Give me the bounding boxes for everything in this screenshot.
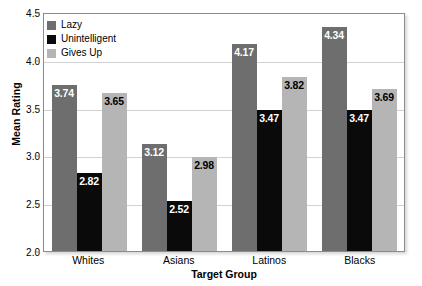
bar-group: 3.122.522.98 <box>134 14 224 251</box>
legend-item[interactable]: Lazy <box>47 19 116 31</box>
bar[interactable]: 3.82 <box>282 77 307 251</box>
bar[interactable]: 4.17 <box>232 44 257 251</box>
bar[interactable]: 2.98 <box>192 157 217 251</box>
bar[interactable]: 3.65 <box>102 93 127 251</box>
bar-chart: Mean Rating 2.02.53.03.54.04.5 3.742.823… <box>0 0 422 286</box>
bar-value-label: 3.69 <box>374 92 394 103</box>
bar-value-label: 3.47 <box>259 113 279 124</box>
legend-label: Unintelligent <box>61 34 116 44</box>
bar[interactable]: 4.34 <box>322 27 347 251</box>
legend-swatch <box>47 35 56 44</box>
y-tick-mark <box>36 252 40 253</box>
legend-label: Gives Up <box>61 48 102 58</box>
x-tick-label: Blacks <box>315 254 406 266</box>
legend-swatch <box>47 21 56 30</box>
bar-value-label: 3.74 <box>54 88 74 99</box>
x-axis-title: Target Group <box>43 268 405 280</box>
legend-item[interactable]: Gives Up <box>47 47 116 59</box>
y-tick-mark <box>36 108 40 109</box>
bar[interactable]: 3.47 <box>347 110 372 251</box>
bar-value-label: 3.82 <box>284 80 304 91</box>
bar[interactable]: 3.47 <box>257 110 282 251</box>
bar[interactable]: 2.52 <box>167 201 192 251</box>
bar[interactable]: 3.69 <box>372 89 397 251</box>
bar-value-label: 2.52 <box>169 204 189 215</box>
bar-value-label: 3.47 <box>349 113 369 124</box>
y-tick-mark <box>36 156 40 157</box>
bar-value-label: 4.17 <box>234 47 254 58</box>
bar[interactable]: 3.12 <box>142 144 167 251</box>
bar-group: 4.173.473.82 <box>224 14 314 251</box>
x-tick-label: Latinos <box>224 254 315 266</box>
bar[interactable]: 3.74 <box>52 85 77 251</box>
bar-value-label: 3.12 <box>144 147 164 158</box>
y-tick-mark <box>36 13 40 14</box>
legend-label: Lazy <box>61 20 82 30</box>
bar-value-label: 3.65 <box>104 96 124 107</box>
bar-value-label: 2.98 <box>194 160 214 171</box>
bar-value-label: 2.82 <box>79 176 99 187</box>
x-axis-ticks: WhitesAsiansLatinosBlacks <box>43 254 405 266</box>
legend-swatch <box>47 49 56 58</box>
legend-item[interactable]: Unintelligent <box>47 33 116 45</box>
x-tick-label: Whites <box>43 254 134 266</box>
y-tick-mark <box>36 60 40 61</box>
y-axis-ticks: 2.02.53.03.54.04.5 <box>14 0 40 286</box>
y-tick-mark <box>36 204 40 205</box>
bar[interactable]: 2.82 <box>77 173 102 251</box>
bar-value-label: 4.34 <box>324 30 344 41</box>
legend: LazyUnintelligentGives Up <box>47 19 116 59</box>
bar-group: 4.343.473.69 <box>314 14 404 251</box>
x-tick-label: Asians <box>134 254 225 266</box>
